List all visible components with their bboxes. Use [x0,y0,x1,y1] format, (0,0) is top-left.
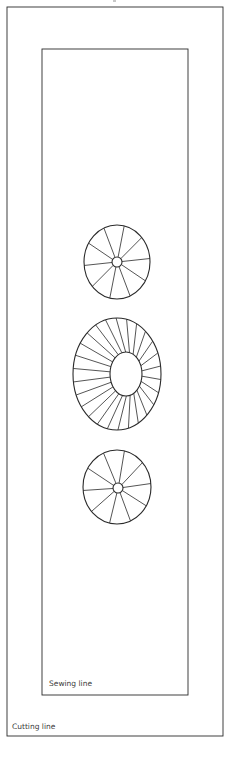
spoke-line [120,493,131,521]
spoke-line [118,396,126,430]
spoke-line [121,265,145,281]
bottom-wheel [83,450,151,524]
spoke-line [133,324,136,354]
spoke-line [103,453,116,483]
wheel-motifs [73,225,161,524]
spoke-line [81,387,113,407]
spoke-line [142,376,161,379]
spoke-line [76,355,111,366]
spoke-line [88,468,114,485]
spoke-line [116,318,126,352]
spoke-line [141,381,158,392]
spoke-line [80,343,112,362]
spoke-line [106,320,122,353]
spoke-line [76,382,111,395]
spoke-line [128,395,130,428]
spoke-line [104,228,115,257]
sewing-line-label: Sewing line [49,679,92,688]
spoke-line [84,262,112,265]
spoke-line [121,238,142,259]
spoke-line [118,226,124,257]
spoke-line [91,491,114,511]
spoke-line [89,243,113,259]
cutting-line-label: Cutting line [12,722,55,731]
spoke-line [110,493,117,523]
quilt-template-diagram [0,0,232,758]
spoke-line [122,463,143,485]
middle-wheel [73,318,161,430]
spoke-line [134,393,139,423]
spoke-line [123,484,151,488]
spoke-line [92,265,113,286]
spoke-line [119,451,124,483]
spoke-line [83,488,113,490]
spoke-line [119,267,130,296]
spoke-line [73,368,110,371]
spoke-line [122,259,150,262]
spoke-line [107,395,122,428]
spoke-line [73,377,110,382]
wheel-hub [112,257,122,267]
spoke-line [127,319,130,352]
top-wheel [84,225,150,299]
wheel-hub [110,352,142,396]
spoke-line [110,267,116,298]
spoke-line [142,366,161,371]
spoke-line [122,491,146,506]
wheel-hub [113,483,123,493]
